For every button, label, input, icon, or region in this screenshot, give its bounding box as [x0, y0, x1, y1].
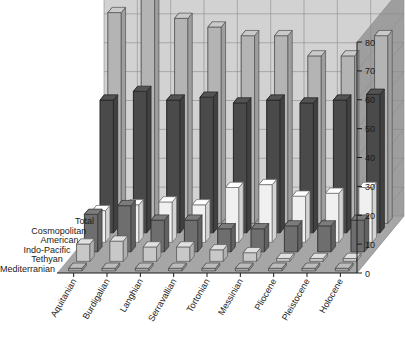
- bar-face-right: [380, 89, 384, 233]
- bar-tethyan-aquitanian: [77, 239, 95, 262]
- bar-face-front: [177, 247, 190, 261]
- bar-face-right: [339, 188, 343, 242]
- bar-face-front: [143, 247, 156, 261]
- bar-indo-pacific-pliocene: [284, 221, 302, 252]
- bar-face-front: [284, 226, 297, 252]
- bar-face-right: [239, 182, 243, 242]
- bar-face-front: [69, 268, 82, 271]
- bar-face-front: [235, 268, 248, 271]
- bar-face-right: [321, 51, 325, 224]
- series-axis-label-tethyan: Tethyan: [31, 254, 63, 264]
- value-tick-label-50: 50: [365, 124, 375, 134]
- bar-tethyan-langhian: [143, 242, 161, 262]
- series-axis-label-indo-pacific: Indo-Pacific: [24, 245, 72, 255]
- bar-face-front: [277, 258, 290, 261]
- bar-face-right: [139, 200, 143, 243]
- bar-face-front: [202, 268, 215, 271]
- bar-face-right: [388, 30, 392, 223]
- bar-face-right: [255, 30, 259, 223]
- series-axis-label-mediterranian: Mediterranian: [0, 264, 55, 274]
- bar-face-right: [272, 179, 276, 242]
- bar-tethyan-burdigalian: [110, 236, 128, 261]
- value-tick-label-0: 0: [365, 269, 370, 279]
- series-axis-label-cosmopolitan: Cosmopolitan: [31, 226, 86, 236]
- bar-face-front: [310, 258, 323, 261]
- bar-face-right: [131, 200, 135, 251]
- bar-face-front: [269, 268, 282, 271]
- bar-face-front: [343, 258, 356, 261]
- bar-face-front: [210, 250, 223, 262]
- bar-face-right: [113, 95, 117, 233]
- bar-tethyan-tortonian: [210, 245, 228, 262]
- bar-face-right: [198, 215, 202, 252]
- bar-face-front: [335, 268, 348, 271]
- value-tick-label-30: 30: [365, 182, 375, 192]
- bar-face-right: [288, 30, 292, 223]
- bar-face-right: [121, 7, 125, 223]
- series-axis-label-american: American: [40, 235, 78, 245]
- bar-chart-3d: 01020304050607080 TotalCosmopolitanAmeri…: [0, 0, 405, 354]
- bar-face-right: [306, 191, 310, 242]
- series-axis-label-total: Total: [75, 216, 94, 226]
- bar-face-right: [206, 200, 210, 243]
- bar-face-front: [169, 268, 182, 271]
- bar-face-right: [172, 197, 176, 243]
- value-tick-label-10: 10: [365, 240, 375, 250]
- bar-face-front: [77, 244, 90, 261]
- bar-face-right: [247, 98, 251, 233]
- value-tick-label-40: 40: [365, 153, 375, 163]
- bar-face-front: [351, 220, 364, 252]
- bar-tethyan-messinian: [243, 247, 261, 261]
- value-tick-label-20: 20: [365, 211, 375, 221]
- bar-indo-pacific-pleistocene: [318, 221, 336, 252]
- chart-container: 01020304050607080 TotalCosmopolitanAmeri…: [0, 0, 405, 354]
- bar-face-front: [110, 241, 123, 261]
- bar-face-right: [147, 86, 151, 233]
- bar-face-right: [164, 215, 168, 252]
- bar-face-right: [213, 92, 217, 233]
- bar-face-right: [313, 98, 317, 233]
- bar-face-front: [135, 268, 148, 271]
- bar-face-right: [106, 205, 110, 242]
- bar-face-right: [280, 95, 284, 233]
- bar-face-right: [188, 13, 192, 223]
- bar-face-front: [302, 268, 315, 271]
- bar-face-right: [347, 95, 351, 233]
- value-tick-label-80: 80: [365, 38, 375, 48]
- value-tick-label-60: 60: [365, 95, 375, 105]
- bar-face-front: [318, 226, 331, 252]
- value-tick-label-70: 70: [365, 66, 375, 76]
- bar-face-right: [221, 22, 225, 224]
- bar-face-front: [243, 253, 256, 262]
- bar-face-right: [180, 95, 184, 233]
- bar-tethyan-serravallian: [177, 242, 195, 262]
- bar-face-front: [102, 268, 115, 271]
- bar-face-right: [98, 209, 102, 252]
- bar-face-right: [155, 0, 159, 223]
